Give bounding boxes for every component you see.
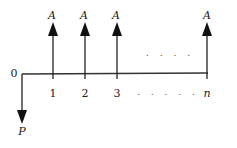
origin-label: 0 (11, 68, 18, 79)
ellipsis-top: . . . . (146, 49, 194, 58)
time-axis (22, 73, 208, 74)
ellipsis-bottom: . . . . . (137, 88, 199, 97)
period-label-1: 1 (50, 88, 57, 99)
present-value-label: P (18, 126, 25, 137)
payment-arrow-n (202, 22, 212, 79)
payment-arrow-2 (80, 22, 90, 79)
period-label-3: 3 (114, 88, 121, 99)
period-label-n: n (203, 88, 210, 99)
cash-flow-diagram: 0 P A A A A 1 2 3 n . . . . . . . . . (0, 0, 237, 148)
period-label-2: 2 (82, 88, 89, 99)
payment-label-n: A (203, 10, 211, 21)
payment-arrow-3 (112, 22, 122, 79)
cash-flow-graphic (0, 0, 237, 148)
payment-label-3: A (112, 10, 120, 21)
payment-arrow-1 (48, 22, 58, 79)
present-value-arrowhead-icon (17, 110, 27, 124)
payment-label-1: A (48, 10, 56, 21)
payment-label-2: A (80, 10, 88, 21)
